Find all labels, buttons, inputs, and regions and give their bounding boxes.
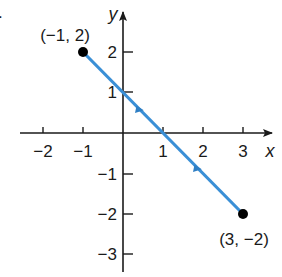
- svg-text:−1: −1: [73, 142, 92, 161]
- x-tick-labels: −2 −1 1 2 3: [33, 142, 247, 161]
- svg-text:−3: −3: [98, 245, 117, 264]
- y-axis-label: y: [107, 4, 119, 24]
- part-marker: .: [0, 3, 3, 22]
- x-ticks: [43, 127, 243, 133]
- endpoint-start: [78, 47, 88, 57]
- svg-text:2: 2: [108, 43, 117, 62]
- x-axis-label: x: [265, 141, 276, 161]
- point-label-end: (3, −2): [219, 230, 269, 249]
- endpoint-end: [238, 209, 248, 219]
- point-label-start: (−1, 2): [40, 26, 90, 45]
- svg-text:1: 1: [158, 142, 167, 161]
- svg-text:−2: −2: [33, 142, 52, 161]
- svg-text:−1: −1: [98, 165, 117, 184]
- svg-text:−2: −2: [98, 205, 117, 224]
- coordinate-plot: . −2 −1 1 2 3 x 2 1 −1 −2 −3 y: [0, 0, 282, 277]
- y-ticks: [123, 52, 133, 254]
- svg-text:2: 2: [198, 142, 207, 161]
- svg-text:3: 3: [238, 142, 247, 161]
